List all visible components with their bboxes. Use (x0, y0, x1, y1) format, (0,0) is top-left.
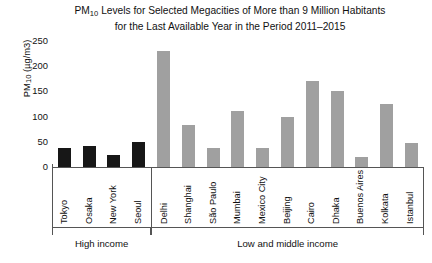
y-tick-label-250: 250 (32, 36, 48, 46)
bar-slot (102, 41, 127, 167)
bar-slot (226, 41, 251, 167)
y-tick-label-150: 150 (32, 86, 48, 96)
chart-title-line-2: for the Last Available Year in the Perio… (32, 20, 428, 33)
bar-slot (176, 41, 201, 167)
category-label-slot: Shanghai (177, 168, 202, 227)
chart-title-rest: Levels for Selected Megacities of More t… (98, 5, 385, 16)
bar-slot (52, 41, 77, 167)
bar-buenos-aires (355, 157, 368, 167)
category-label-shanghai: Shanghai (183, 185, 193, 224)
bar-slot (151, 41, 176, 167)
category-label-cairo: Cairo (306, 202, 316, 224)
category-label-slot: Cairo (300, 168, 325, 227)
category-label-slot: New York (102, 168, 127, 227)
category-label-slot: Osaka (78, 168, 103, 227)
bar-slot (275, 41, 300, 167)
category-label-slot: Beijing (275, 168, 300, 227)
category-label-osaka: Osaka (83, 197, 93, 224)
bar-slot (374, 41, 399, 167)
group-label-low-and-middle-income: Low and middle income (151, 238, 424, 250)
category-label-beijing: Beijing (281, 196, 291, 224)
income-group-brackets: High incomeLow and middle income (52, 228, 424, 260)
bar-delhi (157, 51, 170, 167)
bar-slot (201, 41, 226, 167)
group-bracket: High income (52, 228, 151, 260)
category-label-slot: Dhaka (325, 168, 350, 227)
bar-istanbul (405, 143, 418, 167)
bar-slot (350, 41, 375, 167)
category-label-delhi: Delhi (158, 203, 168, 224)
bar-series (52, 41, 424, 167)
category-label-mumbai: Mumbai (232, 191, 242, 224)
y-tick-label-100: 100 (32, 112, 48, 122)
category-label-slot: Tokyo (53, 168, 78, 227)
x-axis-category-labels: TokyoOsakaNew YorkSeoulDelhiShanghaiSão … (52, 168, 424, 228)
chart-title: PM10 Levels for Selected Megacities of M… (32, 4, 428, 33)
y-tick-label-200: 200 (32, 61, 48, 71)
category-label-istanbul: Istanbul (404, 192, 414, 224)
bar-slot (399, 41, 424, 167)
group-bracket-tick-left (52, 228, 53, 235)
group-bracket-tick-right (423, 228, 424, 235)
category-label-slot: Kolkata (374, 168, 399, 227)
y-axis-tick-labels: 050100150200250 (18, 36, 48, 168)
bar-slot (126, 41, 151, 167)
category-label-slot: São Paulo (202, 168, 227, 227)
category-label-slot: Istanbul (398, 168, 423, 227)
category-label-tokyo: Tokyo (59, 200, 69, 224)
category-label-slot: Buenos Aires (349, 168, 374, 227)
category-label-slot: Mumbai (226, 168, 251, 227)
group-bracket-tick-left (151, 228, 152, 235)
bar-slot (300, 41, 325, 167)
plot-area (52, 41, 424, 167)
bar-kolkata (380, 104, 393, 167)
bar-dhaka (331, 91, 344, 167)
bar-tokyo (58, 148, 71, 167)
bar-new-york (107, 155, 120, 167)
bar-osaka (83, 146, 96, 167)
bar-so-paulo (207, 148, 220, 167)
bar-slot (250, 41, 275, 167)
category-label-new-york: New York (108, 185, 118, 224)
category-label-mexico-city: Mexico City (257, 177, 267, 224)
category-label-seoul: Seoul (133, 201, 143, 225)
category-label-buenos-aires: Buenos Aires (355, 170, 365, 224)
pm10-megacities-bar-chart: PM10 Levels for Selected Megacities of M… (0, 0, 432, 263)
bar-mexico-city (256, 148, 269, 167)
category-label-dhaka: Dhaka (330, 197, 340, 224)
bar-seoul (132, 142, 145, 167)
y-tick-label-50: 50 (38, 137, 48, 147)
category-label-slot: Delhi (151, 168, 177, 227)
group-bracket: Low and middle income (151, 228, 424, 260)
chart-title-pm-text: PM (75, 5, 90, 16)
category-label-slot: Seoul (127, 168, 152, 227)
y-tick-label-0: 0 (43, 162, 48, 172)
chart-title-line-1: PM10 Levels for Selected Megacities of M… (32, 4, 428, 20)
bar-mumbai (231, 111, 244, 167)
category-label-slot: Mexico City (251, 168, 276, 227)
group-label-high-income: High income (52, 238, 151, 250)
category-label-kolkata: Kolkata (380, 193, 390, 224)
bar-shanghai (182, 125, 195, 167)
bar-cairo (306, 81, 319, 167)
category-label-so-paulo: São Paulo (207, 182, 217, 224)
bar-slot (325, 41, 350, 167)
bar-slot (77, 41, 102, 167)
bar-beijing (281, 117, 294, 167)
